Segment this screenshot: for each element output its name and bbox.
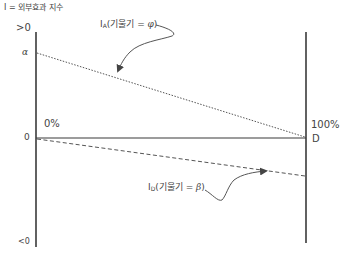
id-line <box>37 139 305 176</box>
chart-title: I = 외부효과 지수 <box>4 4 63 12</box>
ia-line <box>37 53 305 137</box>
id-desc-suffix: ) <box>201 182 205 192</box>
y-zero-label: 0 <box>24 133 30 142</box>
ia-pointer-arrow <box>118 25 174 71</box>
ia-desc-prefix: (기울기 = <box>107 19 148 29</box>
x-right-label: 100% <box>311 120 340 130</box>
y-bottom-label: <0 <box>18 238 30 246</box>
alpha-label: α <box>22 48 28 57</box>
diagram-canvas <box>0 0 354 262</box>
endpoint-d-label: D <box>312 134 320 144</box>
ia-desc-suffix: ) <box>154 19 158 29</box>
id-pointer-arrow <box>205 171 266 200</box>
id-desc-prefix: (기울기 = <box>155 182 196 192</box>
x-left-label: 0% <box>44 119 60 129</box>
id-curve-label: ID(기울기 = β) <box>148 183 205 192</box>
y-top-label: >0 <box>16 23 31 33</box>
ia-curve-label: IA(기울기 = φ) <box>100 20 157 29</box>
